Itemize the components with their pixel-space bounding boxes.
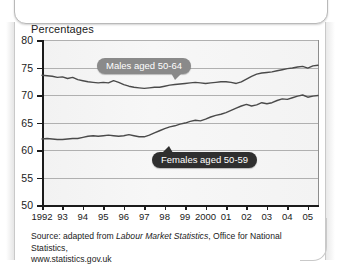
- y-tick-label-70: 70: [11, 89, 33, 101]
- x-tick-label-1994: 94: [78, 211, 89, 222]
- x-tick-label-1995: 95: [98, 211, 109, 222]
- x-tick-label-2001: 01: [221, 211, 232, 222]
- callout-females-tail: [162, 146, 173, 153]
- y-tick-label-80: 80: [11, 34, 33, 46]
- x-tick-label-2003: 03: [262, 211, 273, 222]
- y-tick-label-75: 75: [11, 62, 33, 74]
- callout-females: Females aged 50-59: [152, 152, 257, 168]
- callout-females-label: Females aged 50-59: [161, 154, 248, 165]
- page-left-shadow: [6, 22, 14, 260]
- y-tick-label-65: 65: [11, 117, 33, 129]
- callout-males: Males aged 50-64: [97, 58, 191, 74]
- page-right-shadow: [326, 22, 335, 260]
- callout-males-tail: [171, 73, 182, 80]
- top-card-outline: [14, 0, 328, 24]
- source-publication: Labour Market Statistics: [116, 231, 208, 241]
- x-tick-label-1998: 98: [159, 211, 170, 222]
- x-tick-label-1996: 96: [118, 211, 129, 222]
- y-tick-label-50: 50: [11, 199, 33, 211]
- page-left-edge: [14, 22, 15, 260]
- series-line-females-aged-50-59: [42, 95, 318, 140]
- page-title: Percentages: [31, 23, 94, 35]
- source-prefix: Source: adapted from: [31, 231, 116, 241]
- x-tick-label-2002: 02: [241, 211, 252, 222]
- source-note: Source: adapted from Labour Market Stati…: [31, 231, 313, 266]
- x-tick-label-1999: 99: [180, 211, 191, 222]
- x-tick-label-2005: 05: [302, 211, 313, 222]
- x-tick-label-1992: 1992: [31, 211, 52, 222]
- y-tick-label-55: 55: [11, 172, 33, 184]
- callout-males-label: Males aged 50-64: [106, 60, 182, 71]
- x-tick-label-1993: 93: [57, 211, 68, 222]
- source-url: www.statistics.gov.uk: [31, 254, 112, 264]
- x-tick-label-2000: 2000: [195, 211, 216, 222]
- x-axis-line: [42, 205, 319, 207]
- y-tick-label-60: 60: [11, 144, 33, 156]
- x-tick-label-1997: 97: [139, 211, 150, 222]
- x-tick-label-2004: 04: [282, 211, 293, 222]
